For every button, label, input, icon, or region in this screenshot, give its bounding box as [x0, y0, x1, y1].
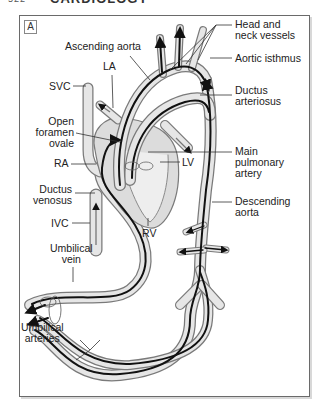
- label-line: arteries: [21, 333, 64, 344]
- label-line: neck vessels: [235, 30, 295, 41]
- label-ductus-venosus: Ductus venosus: [26, 184, 72, 206]
- label-aortic-isthmus: Aortic isthmus: [235, 53, 301, 64]
- label-ascending-aorta: Ascending aorta: [65, 41, 141, 52]
- label-rv: RV: [142, 228, 156, 239]
- label-ductus-arteriosus: Ductus arteriosus: [235, 85, 281, 107]
- label-main-pulmonary-artery: Main pulmonary artery: [235, 146, 284, 179]
- label-open-foramen-ovale: Open foramen ovale: [32, 116, 74, 149]
- label-ivc: IVC: [51, 218, 69, 229]
- label-line: artery: [235, 168, 284, 179]
- label-line: arteriosus: [235, 96, 281, 107]
- label-line: aorta: [235, 207, 290, 218]
- label-umbilical-arteries: Umbilical arteries: [21, 322, 64, 344]
- label-ra: RA: [54, 158, 69, 169]
- label-svc: SVC: [49, 81, 71, 92]
- label-lv: LV: [182, 157, 194, 168]
- label-line: ovale: [32, 138, 74, 149]
- label-descending-aorta: Descending aorta: [235, 196, 290, 218]
- label-line: venosus: [26, 195, 72, 206]
- label-line: vein: [50, 254, 93, 265]
- label-la: LA: [103, 61, 116, 72]
- label-head-neck-vessels: Head and neck vessels: [235, 19, 295, 41]
- label-umbilical-vein: Umbilical vein: [50, 243, 93, 265]
